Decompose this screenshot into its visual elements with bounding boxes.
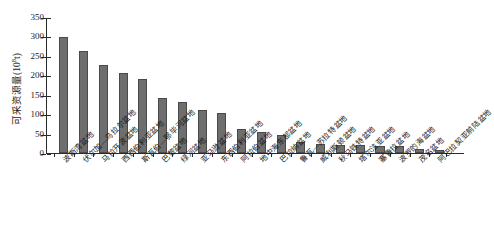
y-axis-tick-label: 250	[20, 51, 44, 62]
y-axis-tick-label: 200	[20, 70, 44, 81]
y-axis-tick-label: 50	[20, 129, 44, 140]
y-axis-tick-label: 150	[20, 90, 44, 101]
y-axis-tick-label: 0	[20, 148, 44, 159]
y-axis-tick-label: 300	[20, 31, 44, 42]
bar	[59, 37, 68, 152]
y-axis-title: 可采资源量(108t)	[7, 24, 21, 154]
y-axis-title-exponent: 8	[10, 59, 17, 62]
y-axis-tick-label: 100	[20, 109, 44, 120]
x-axis-category-labels: 波斯湾盆地伏尔加—乌拉尔盆地马拉开波盆地西西伯利亚盆地斯瓦伯—鄂毕河盆地巴黎盆地…	[46, 156, 470, 240]
y-axis-tick-inner	[47, 154, 51, 155]
y-axis-tick-label: 350	[20, 12, 44, 23]
